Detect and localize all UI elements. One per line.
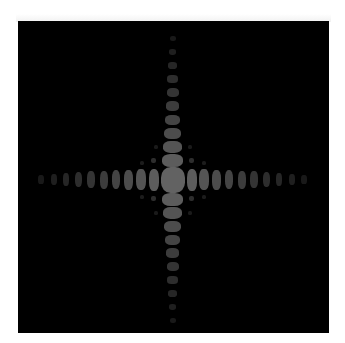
horizontal-side-lobe bbox=[136, 169, 146, 190]
diagonal-lobe bbox=[188, 145, 192, 149]
horizontal-side-lobe bbox=[75, 172, 82, 187]
central-maximum bbox=[161, 167, 185, 193]
horizontal-side-lobe bbox=[225, 170, 234, 189]
vertical-side-lobe bbox=[167, 262, 179, 271]
vertical-side-lobe bbox=[163, 207, 182, 219]
horizontal-side-lobe bbox=[301, 175, 307, 184]
horizontal-side-lobe bbox=[212, 170, 221, 190]
diagonal-lobe bbox=[154, 211, 158, 215]
vertical-side-lobe bbox=[170, 318, 176, 323]
horizontal-side-lobe bbox=[276, 173, 283, 186]
horizontal-side-lobe bbox=[238, 171, 246, 189]
horizontal-side-lobe bbox=[100, 171, 108, 189]
diagonal-lobe bbox=[202, 161, 206, 165]
vertical-side-lobe bbox=[169, 304, 177, 310]
vertical-side-lobe bbox=[164, 128, 181, 139]
diagonal-lobe bbox=[154, 145, 158, 149]
horizontal-side-lobe bbox=[51, 174, 57, 185]
horizontal-side-lobe bbox=[250, 171, 258, 188]
horizontal-side-lobe bbox=[112, 170, 121, 189]
horizontal-side-lobe bbox=[124, 170, 133, 190]
vertical-side-lobe bbox=[162, 154, 183, 167]
vertical-side-lobe bbox=[165, 235, 180, 245]
vertical-side-lobe bbox=[165, 115, 180, 125]
diagonal-lobe bbox=[189, 158, 194, 163]
horizontal-side-lobe bbox=[63, 173, 70, 186]
horizontal-side-lobe bbox=[263, 172, 270, 187]
horizontal-side-lobe bbox=[187, 169, 197, 191]
vertical-side-lobe bbox=[163, 141, 182, 153]
diagonal-lobe bbox=[151, 158, 156, 163]
diagonal-lobe bbox=[151, 196, 156, 201]
vertical-side-lobe bbox=[167, 88, 179, 97]
horizontal-side-lobe bbox=[38, 175, 44, 184]
vertical-side-lobe bbox=[170, 36, 176, 41]
horizontal-side-lobe bbox=[87, 171, 95, 188]
horizontal-side-lobe bbox=[289, 174, 295, 185]
diagonal-lobe bbox=[189, 196, 194, 201]
vertical-side-lobe bbox=[166, 248, 180, 258]
vertical-side-lobe bbox=[167, 75, 178, 83]
vertical-side-lobe bbox=[162, 193, 183, 206]
horizontal-side-lobe bbox=[149, 169, 159, 191]
vertical-side-lobe bbox=[168, 62, 177, 69]
diagonal-lobe bbox=[202, 195, 206, 199]
horizontal-side-lobe bbox=[199, 169, 209, 190]
diffraction-pattern-image bbox=[18, 21, 329, 333]
vertical-side-lobe bbox=[167, 276, 178, 284]
vertical-side-lobe bbox=[169, 49, 177, 55]
vertical-side-lobe bbox=[166, 101, 180, 111]
diagonal-lobe bbox=[140, 161, 144, 165]
vertical-side-lobe bbox=[164, 221, 181, 232]
diagonal-lobe bbox=[188, 211, 192, 215]
vertical-side-lobe bbox=[168, 290, 177, 297]
diagonal-lobe bbox=[140, 195, 144, 199]
